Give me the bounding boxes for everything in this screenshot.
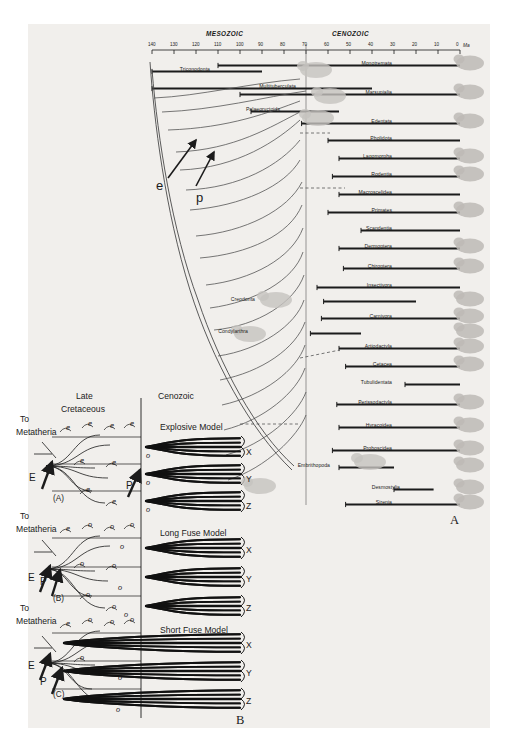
taxon-label-primates: Primates xyxy=(372,207,393,213)
model-c-cenozoic-letter: o xyxy=(118,673,122,682)
era-label-mesozoic: MESOZOIC xyxy=(206,30,243,37)
taxon-label-triconodonta: Triconodonta xyxy=(180,66,210,72)
clade-bracket xyxy=(241,660,245,682)
figure-root: 1401301201101009080706050403020100Tricon… xyxy=(0,0,513,747)
model-b-clade-Z: Z xyxy=(246,603,251,613)
animal-silhouette xyxy=(454,323,485,339)
model-b-stem-letter: o xyxy=(110,522,114,531)
axis-tick-label-100: 100 xyxy=(236,42,244,47)
model-c-stem-letter: o xyxy=(130,615,134,624)
animal-silhouette xyxy=(454,356,485,372)
axis-tick-label-30: 30 xyxy=(390,42,395,47)
taxon-label-macroscelidea: Macroscelidea xyxy=(359,189,393,195)
inline-animal-silhouette xyxy=(311,87,346,104)
model-title-explosive: Explosive Model xyxy=(160,422,223,432)
metatheria-leader xyxy=(42,540,56,556)
panel-a-backbone xyxy=(152,60,306,480)
animal-silhouette xyxy=(454,238,485,254)
model-a-clade-Z: Z xyxy=(246,501,251,511)
clade-bracket xyxy=(241,436,245,458)
model-b-clade-Y: Y xyxy=(246,574,252,584)
taxon-label-insectivora: Insectivora xyxy=(367,282,392,288)
taxon-label-condylarthra: Condylarthra xyxy=(218,328,248,334)
animal-silhouette xyxy=(454,417,485,433)
model-b-origin-E: E xyxy=(28,572,35,583)
taxon-label-sirenia: Sirenia xyxy=(376,499,392,505)
axis-tick-label-10: 10 xyxy=(434,42,439,47)
model-a-stem-letter: e xyxy=(66,423,70,432)
taxon-label-marsupialia: Marsupialia xyxy=(365,89,392,95)
animal-silhouette xyxy=(454,55,485,71)
to-metatheria-b-to: To xyxy=(20,511,29,521)
clade-bracket xyxy=(241,688,245,710)
to-metatheria-c-name: Metatheria xyxy=(16,616,57,626)
arrow-label-p: p xyxy=(196,190,203,205)
taxon-label-cetacea: Cetacea xyxy=(373,361,392,367)
arrow-label-e: e xyxy=(156,178,163,193)
taxon-label-palaeoryctoids: Palaeoryctoids xyxy=(246,106,280,112)
model-b-cenozoic-letter: o xyxy=(120,542,124,551)
animal-silhouette xyxy=(454,113,485,129)
model-b-clade-X: X xyxy=(246,545,252,555)
animal-silhouette xyxy=(454,308,485,324)
axis-tick-label-80: 80 xyxy=(280,42,285,47)
model-title-long-fuse: Long Fuse Model xyxy=(160,528,226,538)
model-caption-a: (A) xyxy=(53,494,64,503)
cretaceous-branch xyxy=(46,435,100,466)
axis-tick-label-140: 140 xyxy=(148,42,156,47)
to-metatheria-c-to: To xyxy=(20,603,29,613)
model-a-cenozoic-letter: o xyxy=(146,505,150,514)
axis-tick-label-130: 130 xyxy=(170,42,178,47)
axis-tick-label-60: 60 xyxy=(324,42,329,47)
to-metatheria-a-to: To xyxy=(20,414,29,424)
model-b-stem-letter: o xyxy=(112,602,116,611)
taxon-label-rodentia: Rodentia xyxy=(371,171,392,177)
arrow-e xyxy=(168,140,196,178)
clade-bracket xyxy=(241,632,245,654)
axis-tick-label-70: 70 xyxy=(302,42,307,47)
model-c-clade-X: X xyxy=(246,640,252,650)
axis-tick-label-120: 120 xyxy=(192,42,200,47)
clade-bracket xyxy=(241,490,245,512)
clade-bracket xyxy=(241,566,245,588)
inline-animal-silhouette xyxy=(297,61,332,78)
model-b-stem-letter: o xyxy=(80,559,84,568)
panel-b-header-late: Late xyxy=(76,391,93,401)
axis-tick-label-90: 90 xyxy=(258,42,263,47)
axis-tick-label-0: 0 xyxy=(456,42,459,47)
model-b-stem-letter: o xyxy=(86,590,90,599)
model-a-placental-P: P xyxy=(126,480,133,491)
model-a-clade-Y: Y xyxy=(246,474,252,484)
animal-silhouette xyxy=(454,166,485,182)
to-metatheria-b-name: Metatheria xyxy=(16,524,57,534)
model-c-origin-P: P xyxy=(40,676,47,687)
model-a-stem-letter: e xyxy=(80,456,84,465)
animal-silhouette xyxy=(454,148,485,164)
model-a-stem-letter: e xyxy=(110,421,114,430)
taxon-label-tubulidentata: Tubulidentata xyxy=(361,379,392,385)
animal-silhouette xyxy=(454,457,485,473)
taxon-label-scandentia: Scandentia xyxy=(366,225,392,231)
taxon-label-artiodactyla: Artiodactyla xyxy=(365,343,392,349)
animal-silhouette xyxy=(454,479,485,495)
model-c-cenozoic-letter: o xyxy=(116,705,120,714)
arrow-p xyxy=(196,152,214,186)
model-a-stem-letter: e xyxy=(112,458,116,467)
model-a-origin-E: E xyxy=(29,472,36,483)
panel-b-header-cretaceous: Cretaceous xyxy=(61,404,105,414)
axis-unit-label: Ma xyxy=(463,43,470,48)
model-a-stem-letter: e xyxy=(88,419,92,428)
model-b-stem-letter: o xyxy=(112,561,116,570)
taxon-label-carnivora: Carnivora xyxy=(369,313,392,319)
taxon-label-desmostylia: Desmostylia xyxy=(372,484,400,490)
animal-silhouette xyxy=(454,494,485,510)
model-b-cenozoic-letter: o xyxy=(118,583,122,592)
axis-tick-label-20: 20 xyxy=(412,42,417,47)
taxon-label-multituberculata: Multituberculata xyxy=(259,83,296,89)
animal-silhouette xyxy=(454,84,485,100)
taxon-label-pholidota: Pholidota xyxy=(370,135,392,141)
taxon-label-hyracoidea: Hyracoidea xyxy=(366,422,392,428)
axis-tick-label-40: 40 xyxy=(368,42,373,47)
panel-b-letter: B xyxy=(236,713,244,728)
clade-bracket xyxy=(241,595,245,617)
